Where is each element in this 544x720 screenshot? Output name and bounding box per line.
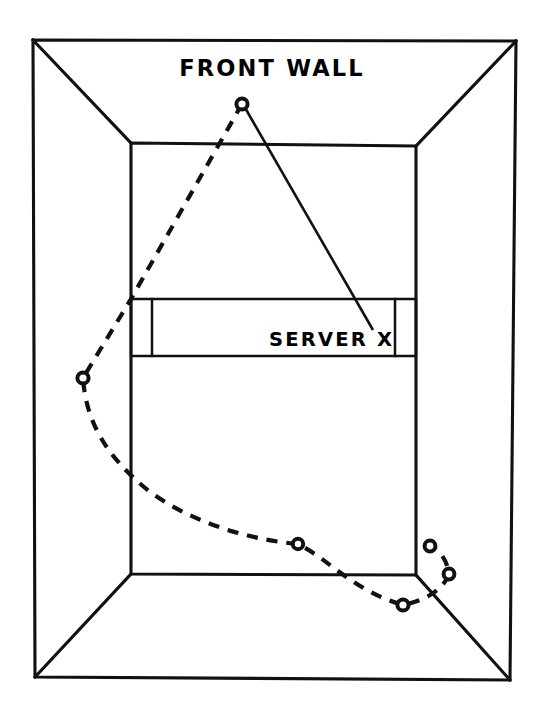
front-wall-label: FRONT WALL bbox=[179, 55, 365, 81]
room-perspective-diagram: FRONT WALL SERVER X bbox=[0, 0, 544, 720]
trajectory-marker-mid-lower bbox=[293, 539, 303, 549]
server-label: SERVER X bbox=[269, 328, 394, 351]
trajectory-marker-left bbox=[77, 372, 88, 383]
canvas-background bbox=[0, 0, 544, 720]
trajectory-marker-apex bbox=[236, 98, 247, 109]
trajectory-marker-cluster-bottom bbox=[397, 599, 408, 610]
trajectory-marker-cluster-right bbox=[444, 569, 455, 580]
trajectory-marker-cluster-top bbox=[425, 541, 436, 552]
figure-root: FRONT WALL SERVER X bbox=[0, 0, 544, 720]
